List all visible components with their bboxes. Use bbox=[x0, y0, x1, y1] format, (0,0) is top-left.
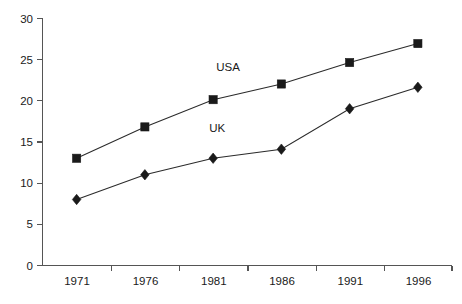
y-tick-label: 0 bbox=[27, 260, 33, 272]
series-label-uk: UK bbox=[209, 122, 225, 134]
chart-canvas: 30 25 20 15 10 5 0 1971 1976 1981 1986 1… bbox=[0, 0, 462, 304]
data-point-marker bbox=[209, 96, 217, 104]
x-tick-label: 1981 bbox=[201, 275, 227, 287]
data-point-marker bbox=[346, 58, 354, 66]
y-tick-label: 25 bbox=[20, 54, 33, 66]
x-tick-label: 1976 bbox=[133, 275, 159, 287]
line-chart: 30 25 20 15 10 5 0 1971 1976 1981 1986 1… bbox=[0, 0, 462, 304]
series-label-usa: USA bbox=[216, 61, 240, 73]
y-tick-label: 30 bbox=[20, 13, 33, 25]
y-tick-label: 10 bbox=[20, 177, 33, 189]
x-tick-label: 1986 bbox=[269, 275, 295, 287]
x-tick-label: 1991 bbox=[338, 275, 364, 287]
data-point-marker bbox=[414, 39, 422, 47]
y-tick-label: 20 bbox=[20, 95, 33, 107]
data-point-marker bbox=[73, 154, 81, 162]
y-tick-label: 15 bbox=[20, 136, 33, 148]
x-tick-label: 1971 bbox=[64, 275, 90, 287]
x-tick-label: 1996 bbox=[406, 275, 432, 287]
data-point-marker bbox=[277, 80, 285, 88]
chart-background bbox=[0, 0, 462, 304]
y-tick-label: 5 bbox=[27, 218, 33, 230]
data-point-marker bbox=[141, 123, 149, 131]
